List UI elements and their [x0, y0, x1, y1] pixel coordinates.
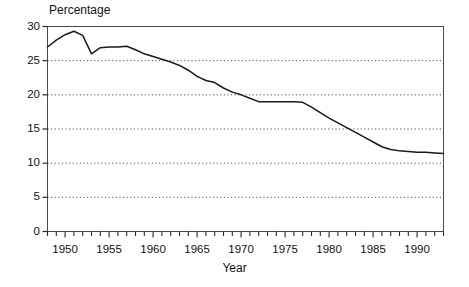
x-tick-label: 1985 [353, 244, 393, 256]
x-tick-label: 1970 [221, 244, 261, 256]
x-axis-title: Year [0, 261, 469, 275]
x-tick-label: 1965 [177, 244, 217, 256]
y-tick-label: 0 [14, 226, 40, 238]
y-tick-label: 25 [14, 55, 40, 67]
x-tick-label: 1975 [265, 244, 305, 256]
y-tick-label: 20 [14, 89, 40, 101]
x-tick-label: 1960 [133, 244, 173, 256]
data-line-percentage [48, 31, 444, 153]
x-tick-label: 1980 [309, 244, 349, 256]
x-tick-label: 1955 [89, 244, 129, 256]
y-tick-label: 15 [14, 123, 40, 135]
y-tick-label: 10 [14, 157, 40, 169]
y-tick-label: 5 [14, 191, 40, 203]
x-tick-label: 1990 [397, 244, 437, 256]
x-tick-label: 1950 [45, 244, 85, 256]
line-chart: Percentage 05101520253019501955196019651… [0, 0, 469, 287]
y-tick-label: 30 [14, 21, 40, 33]
